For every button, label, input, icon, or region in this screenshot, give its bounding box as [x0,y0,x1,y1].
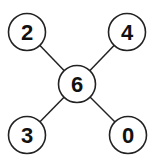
node-bottom-left: 3 [9,117,46,154]
star-graph-diagram: 2 4 6 3 0 [0,0,160,162]
node-top-right: 4 [109,14,146,51]
node-label-bottom-right: 0 [122,123,134,148]
node-label-top-left: 2 [21,20,33,45]
node-label-top-right: 4 [121,20,134,45]
node-label-center: 6 [71,72,83,97]
node-top-left: 2 [9,14,46,51]
node-label-bottom-left: 3 [21,123,33,148]
node-bottom-right: 0 [110,117,147,154]
node-center: 6 [59,66,96,103]
graph-svg: 2 4 6 3 0 [0,0,160,162]
